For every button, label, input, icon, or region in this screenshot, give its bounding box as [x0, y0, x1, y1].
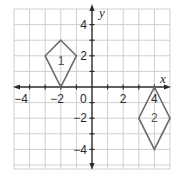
- origin-label: 0: [80, 92, 87, 106]
- x-axis-label: x: [159, 71, 166, 86]
- figure-2-label: 2: [151, 111, 158, 125]
- x-tick-label: 2: [120, 92, 127, 106]
- y-axis-label: y: [97, 5, 105, 20]
- y-axis-up-arrow-icon: [90, 4, 95, 11]
- coordinate-plane: y x 0 −4 −2 2 4 4 2 −2 −4 1 2: [0, 0, 177, 176]
- figure-1-label: 1: [58, 54, 65, 68]
- x-tick-label: −2: [50, 92, 64, 106]
- y-tick-label: 4: [80, 18, 87, 32]
- y-tick-label: −2: [73, 111, 87, 125]
- x-tick-label: −4: [14, 92, 28, 106]
- y-tick-label: −4: [73, 143, 87, 157]
- x-tick-label: 4: [151, 92, 158, 106]
- y-tick-label: 2: [80, 49, 87, 63]
